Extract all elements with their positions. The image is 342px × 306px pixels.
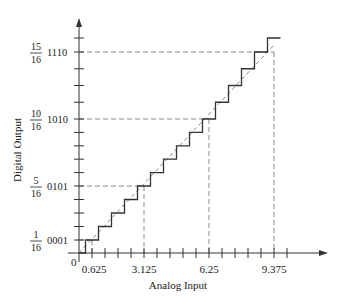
binary-code: 1110 [47,47,67,58]
origin-label: 0 [71,256,77,268]
y-tick-label: 15161110 [30,41,67,65]
chart-canvas: 0.6253.1256.259.375 11600015160101101610… [0,0,342,306]
y-tick-labels: 116000151601011016101015161110 [30,41,68,253]
adc-transfer-chart: 0.6253.1256.259.375 11600015160101101610… [0,0,342,306]
x-tick-label: 3.125 [132,263,157,275]
x-axis-label: Analog Input [149,279,207,291]
x-tick-label: 6.25 [199,263,219,275]
fraction-denominator: 16 [31,188,41,199]
x-tick-labels: 0.6253.1256.259.375 [82,263,287,275]
y-axis-label: Digital Output [11,118,23,182]
fraction-numerator: 5 [34,175,39,186]
x-tick-label: 9.375 [262,263,287,275]
binary-code: 1010 [47,114,68,125]
fraction-denominator: 16 [31,121,41,132]
fraction-numerator: 10 [31,108,41,119]
binary-code: 0101 [47,181,68,192]
axes [68,18,328,262]
y-tick-label: 5160101 [30,175,68,199]
x-axis-arrow-icon [319,250,328,256]
y-tick-label: 1160001 [30,229,68,253]
fraction-numerator: 15 [31,41,41,52]
y-tick-label: 10161010 [30,108,68,132]
y-axis-arrow-icon [76,18,82,27]
x-tick-label: 0.625 [82,263,107,275]
fraction-denominator: 16 [31,54,41,65]
fraction-denominator: 16 [31,242,41,253]
fraction-numerator: 1 [34,229,39,240]
binary-code: 0001 [47,235,68,246]
